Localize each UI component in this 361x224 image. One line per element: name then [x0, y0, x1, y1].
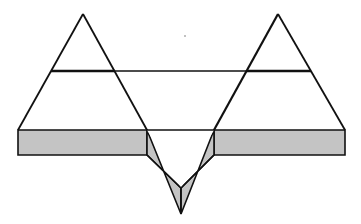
- block-diagram: [0, 0, 361, 224]
- left-layer-slab: [18, 130, 147, 155]
- speck: [184, 35, 185, 36]
- right-layer-slab: [214, 130, 345, 155]
